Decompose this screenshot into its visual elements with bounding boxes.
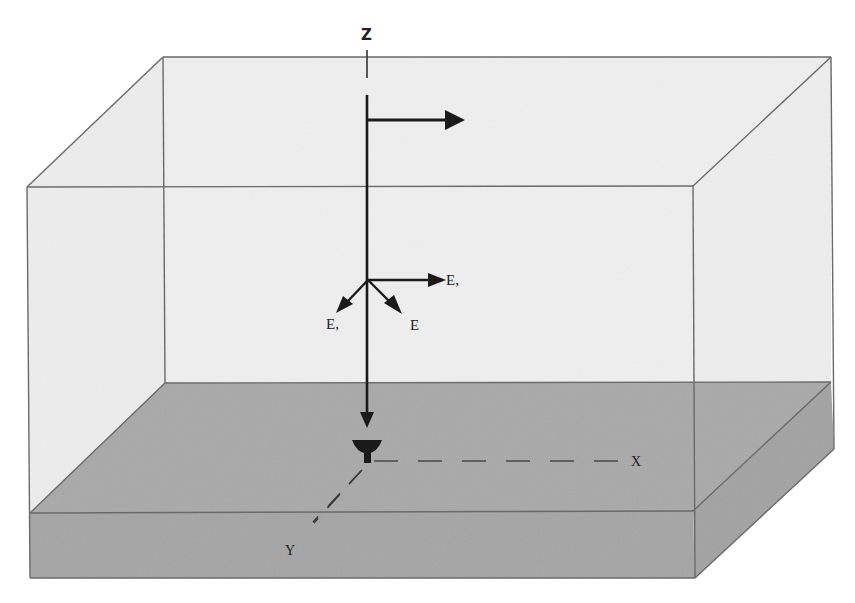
seabed-layer [30,382,834,578]
vector-e1-label: E, [446,272,459,288]
seabed-front-face [30,511,695,578]
y-axis-label: Y [285,543,295,558]
x-axis-label: X [631,454,641,469]
z-axis-label: Z [361,26,372,44]
vector-e2-label: E, [326,316,339,332]
vector-e3-label: E [410,317,419,333]
seabed-top-face [30,382,831,513]
water-column-diagram: Z E, E, E X Y [0,0,855,603]
